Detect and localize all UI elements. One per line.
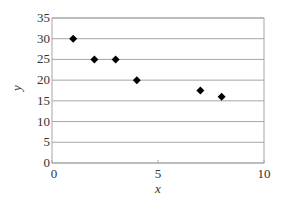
gridlines <box>52 18 264 163</box>
data-point-diamond <box>196 87 204 95</box>
data-point-diamond <box>90 55 98 63</box>
y-tick-label: 15 <box>37 93 50 108</box>
x-axis-label: x <box>154 181 161 196</box>
y-axis-ticks: 05101520253035 <box>37 10 50 170</box>
scatter-chart: 05101520253035 0510 x y <box>0 0 286 208</box>
data-point-diamond <box>69 35 77 43</box>
y-tick-label: 5 <box>44 134 51 149</box>
y-tick-label: 25 <box>37 51 50 66</box>
data-points <box>69 35 225 101</box>
x-tick-label: 0 <box>51 166 58 181</box>
data-point-diamond <box>112 55 120 63</box>
plot-area <box>52 18 264 163</box>
x-tick-label: 5 <box>155 166 162 181</box>
y-tick-label: 35 <box>37 10 50 25</box>
y-tick-label: 10 <box>37 114 50 129</box>
y-tick-label: 0 <box>44 155 51 170</box>
y-tick-label: 30 <box>37 31 50 46</box>
x-tick-label: 10 <box>258 166 271 181</box>
data-point-diamond <box>133 76 141 84</box>
data-point-diamond <box>218 93 226 101</box>
y-tick-label: 20 <box>37 72 50 87</box>
y-axis-label: y <box>9 85 24 93</box>
